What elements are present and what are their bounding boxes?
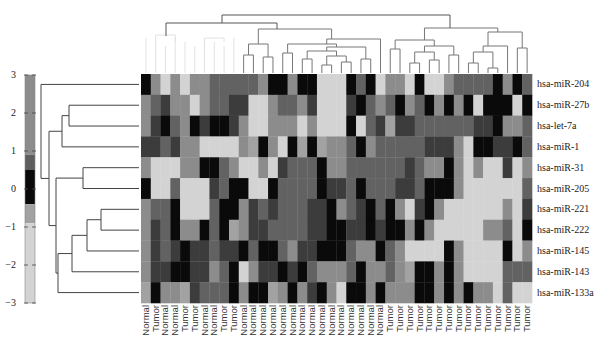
heatmap-cell	[239, 136, 249, 157]
heatmap-cell	[239, 116, 249, 137]
heatmap-cell	[454, 74, 464, 95]
heatmap-cell	[317, 136, 327, 157]
heatmap-cell	[337, 116, 347, 137]
heatmap-cell	[415, 199, 425, 220]
heatmap-cell	[464, 157, 474, 178]
heatmap-cell	[346, 199, 356, 220]
heatmap-cell	[229, 95, 239, 116]
heatmap-cell	[405, 136, 415, 157]
heatmap-cell	[190, 95, 200, 116]
heatmap-cell	[444, 136, 454, 157]
heatmap-cell	[327, 178, 337, 199]
heatmap-cell	[297, 178, 307, 199]
heatmap-cell	[434, 199, 444, 220]
heatmap-cell	[307, 157, 317, 178]
heatmap-cell	[376, 199, 386, 220]
heatmap-cell	[239, 220, 249, 241]
heatmap-cell	[434, 282, 444, 303]
heatmap-cell	[473, 282, 483, 303]
heatmap-cell	[229, 116, 239, 137]
heatmap-cell	[395, 199, 405, 220]
heatmap-cell	[327, 261, 337, 282]
heatmap-cell	[346, 261, 356, 282]
heatmap-cell	[161, 136, 171, 157]
heatmap-cell	[170, 241, 180, 262]
heatmap-cell	[424, 199, 434, 220]
heatmap-cell	[297, 241, 307, 262]
heatmap-cell	[522, 95, 532, 116]
heatmap-cell	[337, 178, 347, 199]
heatmap-cell	[307, 282, 317, 303]
heatmap-cell	[170, 74, 180, 95]
heatmap-cell	[434, 220, 444, 241]
heatmap-cell	[376, 178, 386, 199]
heatmap-cell	[483, 241, 493, 262]
heatmap-cell	[268, 282, 278, 303]
heatmap-cell	[288, 116, 298, 137]
row-label: hsa-miR-143	[537, 266, 589, 278]
colorbar-tick-label: 0	[2, 184, 16, 194]
heatmap-cell	[346, 95, 356, 116]
heatmap-cell	[249, 136, 259, 157]
heatmap-cell	[346, 282, 356, 303]
heatmap-cell	[356, 95, 366, 116]
heatmap-cell	[258, 261, 268, 282]
heatmap-cell	[395, 74, 405, 95]
heatmap-cell	[337, 261, 347, 282]
heatmap-cell	[327, 157, 337, 178]
heatmap-cell	[161, 178, 171, 199]
heatmap-cell	[268, 199, 278, 220]
heatmap-cell	[385, 95, 395, 116]
heatmap-cell	[434, 178, 444, 199]
heatmap-cell	[405, 74, 415, 95]
heatmap-cell	[219, 220, 229, 241]
heatmap-cell	[444, 95, 454, 116]
heatmap-cell	[415, 220, 425, 241]
heatmap-cell	[337, 95, 347, 116]
heatmap-cell	[180, 95, 190, 116]
heatmap-cell	[512, 241, 522, 262]
heatmap-cell	[464, 95, 474, 116]
heatmap-cell	[356, 199, 366, 220]
heatmap-cell	[415, 282, 425, 303]
heatmap-cell	[258, 241, 268, 262]
heatmap-cell	[317, 261, 327, 282]
heatmap-cell	[415, 95, 425, 116]
heatmap-cell	[200, 220, 210, 241]
heatmap-cell	[239, 282, 249, 303]
heatmap-cell	[327, 220, 337, 241]
heatmap-cell	[180, 74, 190, 95]
heatmap-cell	[376, 220, 386, 241]
heatmap-cell	[366, 116, 376, 137]
heatmap-cell	[415, 261, 425, 282]
heatmap-cell	[473, 178, 483, 199]
heatmap-cell	[337, 157, 347, 178]
heatmap-cell	[229, 136, 239, 157]
heatmap-cell	[337, 199, 347, 220]
heatmap-cell	[356, 220, 366, 241]
heatmap-cell	[356, 74, 366, 95]
heatmap-cell	[219, 116, 229, 137]
heatmap-cell	[268, 241, 278, 262]
heatmap-cell	[522, 157, 532, 178]
heatmap-cell	[444, 282, 454, 303]
heatmap-cell	[229, 220, 239, 241]
heatmap-cell	[473, 199, 483, 220]
heatmap-cell	[522, 220, 532, 241]
heatmap-cell	[297, 116, 307, 137]
heatmap-cell	[200, 74, 210, 95]
row-label: hsa-miR-1	[537, 141, 579, 153]
heatmap-cell	[395, 241, 405, 262]
heatmap-cell	[483, 95, 493, 116]
heatmap-cell	[483, 282, 493, 303]
heatmap-cell	[268, 95, 278, 116]
heatmap-cell	[229, 178, 239, 199]
heatmap-cell	[503, 157, 513, 178]
heatmap-cell	[141, 74, 151, 95]
heatmap-cell	[424, 116, 434, 137]
heatmap-cell	[434, 157, 444, 178]
heatmap-cell	[170, 220, 180, 241]
heatmap-cell	[229, 261, 239, 282]
heatmap-cell	[258, 116, 268, 137]
heatmap-cell	[229, 282, 239, 303]
